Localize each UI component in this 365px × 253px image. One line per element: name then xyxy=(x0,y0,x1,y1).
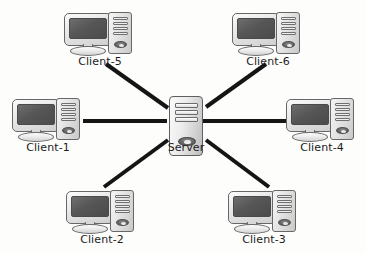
desktop-computer-icon xyxy=(228,190,300,234)
monitor-body xyxy=(66,191,114,224)
server-slot xyxy=(175,103,198,108)
server-slot xyxy=(175,117,198,122)
tower-slot xyxy=(115,195,130,198)
tower-slot xyxy=(281,27,296,30)
node-client2[interactable]: Client-2 xyxy=(66,190,138,234)
tower-slot xyxy=(281,32,296,35)
link-client2-server xyxy=(104,140,168,187)
node-label-server: Server xyxy=(168,142,205,154)
tower-slot xyxy=(277,210,292,213)
node-label-client4: Client-4 xyxy=(300,142,344,154)
tower-slot xyxy=(61,103,76,106)
node-label-client3: Client-3 xyxy=(242,234,286,246)
monitor-screen xyxy=(69,18,107,39)
tower-slot xyxy=(277,205,292,208)
desktop-computer-icon xyxy=(64,12,136,56)
tower-slot xyxy=(113,17,128,20)
tower-slot xyxy=(113,27,128,30)
tower-power-badge xyxy=(336,127,349,134)
tower-slot xyxy=(277,195,292,198)
node-label-client1: Client-1 xyxy=(26,142,70,154)
monitor-screen xyxy=(291,104,329,125)
tower-slot xyxy=(113,22,128,25)
monitor-body xyxy=(12,99,60,132)
tower-slot xyxy=(115,200,130,203)
computer-tower xyxy=(108,12,132,54)
monitor-screen xyxy=(237,18,275,39)
computer-tower xyxy=(330,98,354,140)
monitor-screen xyxy=(233,196,271,217)
tower-slot xyxy=(335,113,350,116)
tower-power-badge xyxy=(62,127,75,134)
tower-slot xyxy=(277,200,292,203)
tower-power-badge xyxy=(278,219,291,226)
link-client5-server xyxy=(106,64,168,108)
monitor-screen xyxy=(17,104,55,125)
link-client6-server xyxy=(206,64,266,107)
monitor-screen xyxy=(71,196,109,217)
node-server[interactable]: Server xyxy=(169,96,203,156)
desktop-computer-icon xyxy=(12,98,84,142)
tower-slot xyxy=(61,113,76,116)
tower-power-badge xyxy=(114,41,127,48)
tower-power-badge xyxy=(282,41,295,48)
desktop-computer-icon xyxy=(232,12,304,56)
tower-slot xyxy=(335,108,350,111)
tower-slot xyxy=(281,17,296,20)
tower-slot xyxy=(115,205,130,208)
desktop-computer-icon xyxy=(66,190,138,234)
monitor-body xyxy=(286,99,334,132)
computer-tower xyxy=(276,12,300,54)
tower-slot xyxy=(335,103,350,106)
tower-slot xyxy=(61,118,76,121)
computer-tower xyxy=(110,190,134,232)
tower-slot xyxy=(115,210,130,213)
tower-power-badge xyxy=(116,219,129,226)
tower-slot xyxy=(281,22,296,25)
node-label-client5: Client-5 xyxy=(78,56,122,68)
network-diagram-canvas: Client-5 Client-6 xyxy=(0,0,365,253)
monitor-body xyxy=(64,13,112,46)
tower-slot xyxy=(335,118,350,121)
tower-slot xyxy=(61,108,76,111)
node-client3[interactable]: Client-3 xyxy=(228,190,300,234)
monitor-body xyxy=(232,13,280,46)
node-client6[interactable]: Client-6 xyxy=(232,12,304,56)
server-slot xyxy=(175,110,198,115)
desktop-computer-icon xyxy=(286,98,358,142)
link-client3-server xyxy=(206,140,269,187)
node-client4[interactable]: Client-4 xyxy=(286,98,358,142)
monitor-body xyxy=(228,191,276,224)
node-label-client2: Client-2 xyxy=(80,234,124,246)
node-client1[interactable]: Client-1 xyxy=(12,98,84,142)
node-client5[interactable]: Client-5 xyxy=(64,12,136,56)
tower-slot xyxy=(113,32,128,35)
computer-tower xyxy=(272,190,296,232)
node-label-client6: Client-6 xyxy=(246,56,290,68)
computer-tower xyxy=(56,98,80,140)
